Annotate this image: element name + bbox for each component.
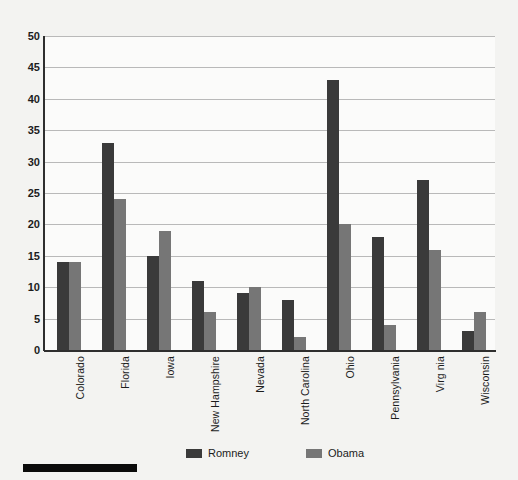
bar-group — [237, 36, 261, 350]
x-axis-label: New Hampshire — [209, 356, 221, 432]
x-axis-label: Iowa — [164, 356, 176, 379]
y-tick-label-45: 45 — [4, 62, 40, 73]
bar[interactable] — [249, 287, 261, 350]
y-tick-label-30: 30 — [4, 156, 40, 167]
bar[interactable] — [339, 224, 351, 350]
bar-group — [192, 36, 216, 350]
bar[interactable] — [147, 256, 159, 350]
legend-swatch-icon — [306, 449, 322, 458]
bar[interactable] — [237, 293, 249, 350]
bar[interactable] — [462, 331, 474, 350]
y-tick-label-0: 0 — [4, 345, 40, 356]
bar[interactable] — [474, 312, 486, 350]
bar-group — [147, 36, 171, 350]
x-axis-label: Wisconsin — [479, 356, 491, 405]
x-axis-line — [44, 350, 496, 352]
bar-group — [372, 36, 396, 350]
bar-group — [282, 36, 306, 350]
legend-item[interactable]: Romney — [186, 446, 249, 460]
bar[interactable] — [57, 262, 69, 350]
bar-group — [417, 36, 441, 350]
bar-group — [327, 36, 351, 350]
y-axis-line — [43, 36, 45, 351]
bar[interactable] — [294, 337, 306, 350]
plot-area — [44, 36, 495, 350]
legend-label: Obama — [328, 448, 364, 459]
y-tick-label-40: 40 — [4, 93, 40, 104]
y-tick-label-20: 20 — [4, 219, 40, 230]
x-axis-label: Ohio — [344, 356, 356, 379]
x-axis-label: North Carolina — [299, 356, 311, 425]
bar[interactable] — [372, 237, 384, 350]
bar[interactable] — [192, 281, 204, 350]
bar[interactable] — [69, 262, 81, 350]
bar[interactable] — [384, 325, 396, 350]
bar[interactable] — [204, 312, 216, 350]
bar[interactable] — [327, 80, 339, 350]
bar[interactable] — [159, 231, 171, 350]
bar[interactable] — [114, 199, 126, 350]
x-axis-label: Colorado — [74, 356, 86, 399]
x-axis-label: Virg nia — [434, 356, 446, 392]
legend-label: Romney — [208, 448, 249, 459]
legend-item[interactable]: Obama — [306, 446, 364, 460]
y-tick-label-5: 5 — [4, 313, 40, 324]
y-axis-tick-labels: 50454035302520151050 — [0, 0, 40, 480]
bar-chart: 50454035302520151050 ColoradoFloridaIowa… — [0, 0, 518, 480]
y-tick-label-50: 50 — [4, 31, 40, 42]
bar[interactable] — [429, 250, 441, 350]
x-axis-label: Nevada — [254, 356, 266, 393]
bar-group — [57, 36, 81, 350]
y-tick-label-25: 25 — [4, 188, 40, 199]
bar[interactable] — [417, 180, 429, 350]
y-tick-label-35: 35 — [4, 125, 40, 136]
x-axis-label: Pennsylvania — [389, 356, 401, 420]
bar[interactable] — [102, 143, 114, 350]
y-tick-label-15: 15 — [4, 250, 40, 261]
chart-legend: RomneyObama — [0, 446, 518, 462]
legend-swatch-icon — [186, 449, 202, 458]
bar-group — [462, 36, 486, 350]
bar-group — [102, 36, 126, 350]
y-tick-label-10: 10 — [4, 282, 40, 293]
x-axis-label: Florida — [119, 356, 131, 389]
bar[interactable] — [282, 300, 294, 350]
scale-bar — [23, 464, 137, 472]
